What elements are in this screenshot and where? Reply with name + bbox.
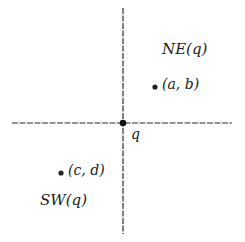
region-label-sw: SW(q) [40,193,87,208]
quadrant-diagram: NE(q) (a, b) q (c, d) SW(q) [0,0,245,242]
region-label-ne: NE(q) [162,42,207,57]
origin-label-q: q [131,127,140,141]
point-label-cd: (c, d) [68,163,105,177]
point-label-ab: (a, b) [162,77,199,91]
origin-point-q [120,120,127,127]
point-cd [58,170,63,175]
point-ab [152,84,157,89]
diagram-graphics [0,0,245,242]
